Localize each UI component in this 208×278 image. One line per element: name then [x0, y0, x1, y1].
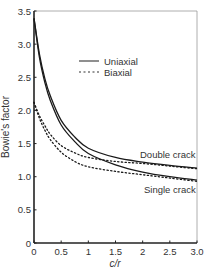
x-tick-label: 0.5: [55, 246, 68, 257]
x-tick-label: 2: [140, 246, 145, 257]
y-tick-label: 1.5: [18, 138, 31, 149]
y-tick-label: 0: [26, 238, 31, 249]
y-tick-label: 0.5: [18, 204, 31, 215]
x-tick-label: 1: [86, 246, 91, 257]
y-tick-label: 3.5: [18, 6, 31, 17]
y-tick-label: 2.5: [18, 72, 31, 83]
y-axis-label: Bowie's factor: [0, 95, 11, 158]
legend: UniaxialBiaxial: [79, 56, 138, 78]
x-tick-label: 2.5: [163, 246, 176, 257]
y-tick-label: 1.0: [18, 171, 31, 182]
legend-label: Uniaxial: [104, 56, 138, 67]
annotation-single-crack: Single crack: [144, 184, 196, 195]
y-tick-label: 3.0: [18, 39, 31, 50]
x-tick-label: 0: [31, 246, 36, 257]
x-tick-label: 1.5: [109, 246, 122, 257]
legend-label: Biaxial: [104, 67, 132, 78]
annotation-double-crack: Double crack: [140, 149, 196, 160]
bowie-factor-chart: 00.511.522.53.000.51.01.52.02.53.03.5 Un…: [0, 0, 208, 278]
x-axis-label: c/r: [109, 258, 121, 269]
plot-frame: [34, 11, 197, 243]
x-tick-label: 3.0: [190, 246, 203, 257]
y-tick-label: 2.0: [18, 105, 31, 116]
series-line-0: [34, 18, 197, 168]
